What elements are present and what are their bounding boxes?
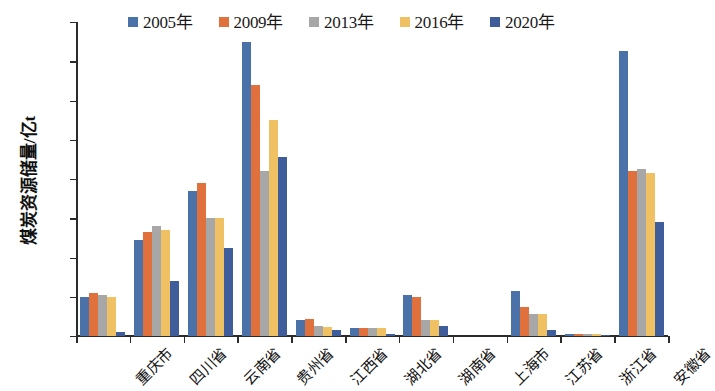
bar [592, 334, 601, 336]
bar [314, 326, 323, 336]
bar-group [188, 22, 233, 336]
x-tick-mark [130, 336, 132, 343]
bar [403, 295, 412, 336]
bar-group [565, 22, 610, 336]
x-tick-mark [345, 336, 347, 343]
bar [197, 183, 206, 336]
x-tick-mark [76, 336, 78, 343]
bar [332, 330, 341, 336]
y-tick-mark [70, 179, 76, 180]
x-axis-label: 江西省 [345, 342, 392, 389]
bar-group [80, 22, 125, 336]
bar [538, 314, 547, 336]
bar [143, 232, 152, 336]
x-tick-mark [560, 336, 562, 343]
x-tick-mark [184, 336, 186, 343]
bar [430, 320, 439, 336]
bar [89, 293, 98, 336]
bar [377, 328, 386, 336]
x-tick-mark [507, 336, 509, 343]
bar [601, 335, 610, 336]
x-tick-mark [291, 336, 293, 343]
bar [520, 307, 529, 336]
bar-group [457, 22, 502, 336]
x-tick-mark [614, 336, 616, 343]
y-tick-mark [70, 61, 76, 62]
bar [80, 297, 89, 336]
bar-group [242, 22, 287, 336]
x-axis-label: 浙江省 [614, 342, 661, 389]
plot-area: 020406080100120140160 [76, 22, 668, 336]
bar [574, 334, 583, 336]
bar-group [619, 22, 664, 336]
x-tick-mark [453, 336, 455, 343]
y-axis-line [76, 22, 78, 336]
x-axis-label: 安徽省 [668, 342, 715, 389]
bar [251, 85, 260, 336]
bar [242, 42, 251, 336]
bar [170, 281, 179, 336]
x-axis-label: 上海市 [507, 342, 554, 389]
y-tick-mark [70, 101, 76, 102]
x-axis-label: 贵州省 [292, 342, 339, 389]
bar [269, 120, 278, 336]
bar [637, 169, 646, 336]
bar [646, 173, 655, 336]
bar [98, 295, 107, 336]
x-axis-label: 云南省 [238, 342, 285, 389]
y-tick-mark [70, 22, 76, 23]
bar [359, 328, 368, 336]
x-axis-label: 湖南省 [453, 342, 500, 389]
bar [296, 320, 305, 336]
y-tick-mark [70, 297, 76, 298]
bar [134, 240, 143, 336]
bar [323, 327, 332, 336]
bar-group [403, 22, 448, 336]
bar [224, 248, 233, 336]
y-tick-mark [70, 140, 76, 141]
bar [260, 171, 269, 336]
bar [511, 291, 520, 336]
bar [583, 334, 592, 336]
bar [412, 297, 421, 336]
x-tick-mark [668, 336, 670, 343]
bar [655, 222, 664, 336]
bar [529, 314, 538, 336]
bar [188, 191, 197, 336]
bar [439, 326, 448, 336]
x-axis-label: 重庆市 [130, 342, 177, 389]
bar [215, 218, 224, 336]
bar-group [134, 22, 179, 336]
bar [161, 230, 170, 336]
bar [628, 171, 637, 336]
bar [305, 319, 314, 336]
bar [565, 334, 574, 336]
bar [152, 226, 161, 336]
x-tick-mark [399, 336, 401, 343]
bar [421, 320, 430, 336]
x-axis-label: 湖北省 [399, 342, 446, 389]
bar [206, 218, 215, 336]
bar [368, 328, 377, 336]
y-axis-title: 煤炭资源储量/亿t [15, 66, 40, 296]
bar [278, 157, 287, 336]
y-tick-mark [70, 258, 76, 259]
bar [619, 51, 628, 336]
y-tick-mark [70, 218, 76, 219]
bar-group [511, 22, 556, 336]
bar [386, 334, 395, 336]
bar-group [296, 22, 341, 336]
bar-group [350, 22, 395, 336]
x-tick-mark [237, 336, 239, 343]
bar [350, 328, 359, 336]
bar [116, 332, 125, 336]
bar [547, 330, 556, 336]
x-axis-label: 四川省 [184, 342, 231, 389]
x-axis-label: 江苏省 [561, 342, 608, 389]
bar [107, 297, 116, 336]
